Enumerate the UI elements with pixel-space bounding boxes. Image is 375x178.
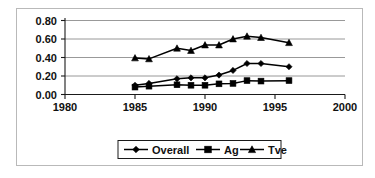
- series-layer: [132, 33, 293, 90]
- data-point: [230, 67, 236, 73]
- data-point: [244, 60, 250, 66]
- data-point: [174, 82, 180, 88]
- line-chart: 0.80 0.60 0.40 0.20 0.00 1980 1985 1990 …: [0, 0, 375, 178]
- y-tick-label-4: 0.00: [36, 89, 57, 101]
- y-axis-labels: 0.80 0.60 0.40 0.20 0.00: [36, 15, 57, 101]
- legend-marker-square: [205, 146, 212, 153]
- legend-label-tve: Tve: [268, 144, 287, 156]
- x-tick-label-1: 1985: [123, 101, 147, 113]
- data-point: [258, 60, 264, 66]
- figure-root: 0.80 0.60 0.40 0.20 0.00 1980 1985 1990 …: [0, 0, 375, 178]
- data-point: [230, 81, 236, 87]
- gridlines: [65, 21, 345, 77]
- x-tick-label-0: 1980: [53, 101, 77, 113]
- data-point: [216, 81, 222, 87]
- data-point: [132, 84, 138, 90]
- x-axis-labels: 1980 1985 1990 1995 2000: [53, 101, 357, 113]
- x-tick-marks: [65, 95, 345, 100]
- data-point: [286, 64, 292, 70]
- y-tick-label-1: 0.60: [36, 33, 57, 45]
- x-tick-label-2: 1990: [193, 101, 217, 113]
- series-line-overall: [135, 64, 289, 86]
- chart-legend: Overall Ag Tve: [118, 141, 287, 159]
- x-tick-label-3: 1995: [263, 101, 287, 113]
- legend-label-overall: Overall: [152, 144, 189, 156]
- data-point: [286, 78, 292, 84]
- y-tick-label-0: 0.80: [36, 15, 57, 27]
- data-point: [258, 78, 264, 84]
- y-tick-label-3: 0.20: [36, 70, 57, 82]
- data-point: [216, 72, 222, 78]
- x-tick-label-4: 2000: [333, 101, 357, 113]
- y-tick-label-2: 0.40: [36, 52, 57, 64]
- legend-label-ag: Ag: [224, 144, 239, 156]
- data-point: [188, 82, 194, 88]
- series-line-tve: [135, 36, 289, 59]
- y-tick-marks: [61, 21, 65, 95]
- data-point: [244, 78, 250, 84]
- data-point: [174, 76, 180, 82]
- series-ag: [132, 78, 292, 90]
- data-point: [202, 82, 208, 88]
- data-point: [146, 83, 152, 89]
